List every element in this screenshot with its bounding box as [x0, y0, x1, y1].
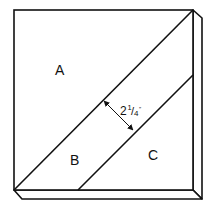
board-right-edge	[193, 10, 202, 199]
region-label-a: A	[55, 62, 65, 78]
region-label-b: B	[70, 152, 79, 168]
dimension-whole: 2	[120, 104, 127, 118]
board-diagram: A B C 2 1 / 4 ″	[0, 0, 216, 210]
region-label-c: C	[148, 147, 158, 163]
board-bottom-edge	[14, 190, 202, 199]
